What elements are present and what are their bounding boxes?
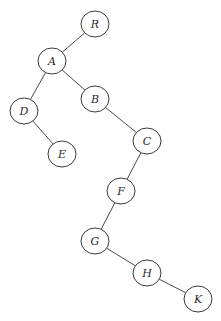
tree-node-k: K xyxy=(184,286,212,312)
node-label: G xyxy=(91,235,100,248)
node-label: H xyxy=(141,267,152,280)
edge-g-h xyxy=(107,248,136,266)
binary-tree-diagram: RABDCEFGHK xyxy=(0,0,221,321)
edge-a-d xyxy=(30,73,45,100)
node-label: F xyxy=(116,185,125,198)
node-label: D xyxy=(19,105,29,118)
edge-d-e xyxy=(33,121,53,144)
tree-node-g: G xyxy=(81,228,109,254)
node-label: C xyxy=(143,135,152,148)
node-label: B xyxy=(90,93,99,106)
tree-node-d: D xyxy=(10,98,38,124)
node-label: K xyxy=(193,293,203,306)
tree-node-c: C xyxy=(133,128,161,154)
tree-node-f: F xyxy=(107,178,135,204)
tree-node-e: E xyxy=(48,141,76,167)
node-label: A xyxy=(47,55,56,68)
tree-nodes: RABDCEFGHK xyxy=(10,11,212,312)
edge-a-b xyxy=(62,70,85,90)
node-label: E xyxy=(57,148,66,161)
tree-node-b: B xyxy=(81,86,109,112)
node-label: R xyxy=(90,18,99,31)
edge-f-g xyxy=(101,203,115,230)
edge-r-a xyxy=(62,33,84,52)
edge-h-k xyxy=(159,279,185,292)
tree-node-h: H xyxy=(133,260,161,286)
edge-c-f xyxy=(127,153,141,180)
edge-b-c xyxy=(106,108,137,133)
tree-node-a: A xyxy=(38,48,66,74)
tree-node-r: R xyxy=(81,11,109,37)
